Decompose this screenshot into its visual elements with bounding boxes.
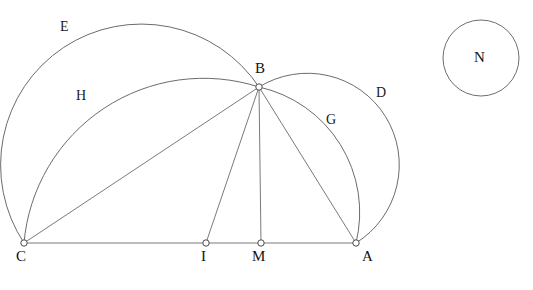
point-marker-C: [21, 240, 27, 246]
arc-label-E: E: [60, 20, 69, 34]
point-marker-I: [203, 240, 209, 246]
point-label-A: A: [362, 249, 373, 264]
segment-CB: [24, 87, 259, 243]
point-label-C: C: [16, 249, 26, 264]
arc-label-G: G: [326, 113, 336, 127]
point-label-I: I: [201, 249, 206, 264]
arc-G: [259, 87, 360, 243]
geometry-canvas: [0, 0, 533, 290]
arc-label-D: D: [376, 86, 386, 100]
arc-H: [24, 78, 259, 243]
segment-BA: [259, 87, 356, 243]
point-marker-group: [21, 84, 359, 246]
segment-group: [24, 87, 356, 243]
segment-BM: [259, 87, 261, 243]
circle-label-N: N: [474, 50, 485, 65]
point-marker-M: [258, 240, 264, 246]
point-label-M: M: [252, 249, 265, 264]
arc-label-H: H: [76, 89, 86, 103]
point-marker-A: [353, 240, 359, 246]
point-marker-B: [256, 84, 262, 90]
arc-E: [0, 24, 259, 243]
geometry-figure: C I M A B E H D G N: [0, 0, 533, 290]
segment-BI: [206, 87, 259, 243]
arc-group: [0, 24, 399, 243]
point-label-B: B: [255, 61, 265, 76]
